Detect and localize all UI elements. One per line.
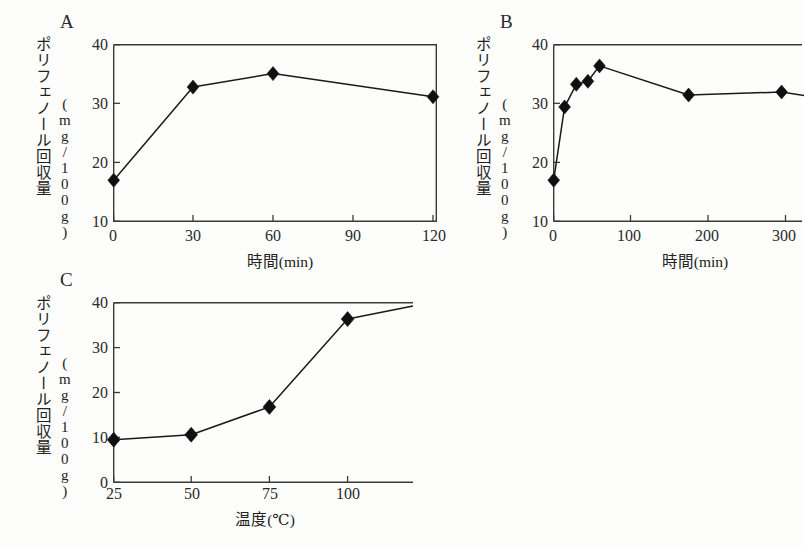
- panel-b-x-tick-300: 300: [764, 228, 804, 244]
- panel-a-y-axis-label-main: ポリフェノール回収量: [34, 36, 51, 196]
- panel-c-marker-0: [107, 432, 120, 447]
- panel-b-marker-1: [559, 100, 571, 114]
- panel-b-y-axis-label-main: ポリフェノール回収量: [474, 36, 491, 196]
- panel-a-y-axis-unit: (mg/100g): [56, 96, 72, 226]
- panel-c-y-tick-40: 40: [78, 295, 108, 311]
- panel-a-series-line: [114, 74, 433, 181]
- panel-c-letter: C: [60, 269, 73, 291]
- panel-a-y-tick-30: 30: [78, 96, 108, 112]
- panel-a-x-tick-0: 0: [99, 228, 127, 244]
- panel-b-y-axis-unit-text: (mg/100g): [497, 96, 513, 240]
- panel-b-x-tick-200: 200: [687, 228, 727, 244]
- panel-a-marker-2: [267, 67, 279, 81]
- panel-b-x-tick-0: 0: [539, 228, 567, 244]
- panel-c-plot: [113, 302, 413, 483]
- panel-a-marker-3: [427, 90, 439, 104]
- panel-b-letter: B: [500, 11, 513, 33]
- panel-b-x-axis-label: 時間(min): [615, 249, 775, 271]
- panel-c-y-axis-unit: (mg/100g): [56, 355, 72, 487]
- panel-c-y-axis-label: ポリフェノール回収量: [34, 295, 50, 495]
- panel-a-x-tick-90: 90: [338, 228, 368, 244]
- panel-c-series-line: [114, 306, 413, 440]
- panel-c-y-tick-10: 10: [78, 430, 108, 446]
- panel-c-marker-1: [185, 427, 198, 442]
- panel-b-y-axis-unit: (mg/100g): [496, 96, 512, 226]
- panel-c-y-axis-unit-text: (mg/100g): [57, 355, 73, 499]
- panel-b-marker-6: [776, 85, 788, 99]
- panel-a-y-axis-label: ポリフェノール回収量: [34, 36, 50, 232]
- panel-b-marker-2: [570, 77, 582, 91]
- panel-b-y-tick-40: 40: [518, 37, 548, 53]
- panel-a-y-axis-unit-text: (mg/100g): [57, 96, 73, 240]
- panel-a-markers: [108, 67, 439, 188]
- panel-a: A ポリフェノール回収量 (mg/100g) 40 30 20 10: [0, 0, 460, 275]
- panel-c-y-tick-30: 30: [78, 340, 108, 356]
- panel-c: C ポリフェノール回収量 (mg/100g) 40 30 20 10 0: [0, 262, 460, 547]
- panel-b-x-tick-100: 100: [609, 228, 649, 244]
- panel-b-marker-0: [548, 173, 560, 187]
- panel-c-x-axis-label: 温度(℃): [185, 507, 345, 529]
- panel-b-y-axis-label: ポリフェノール回収量: [474, 36, 490, 232]
- panel-c-x-tick-50: 50: [176, 486, 208, 502]
- panel-a-y-tick-40: 40: [78, 37, 108, 53]
- panel-b-plot: [553, 44, 802, 222]
- panel-a-y-tick-20: 20: [78, 155, 108, 171]
- panel-c-x-tick-25: 25: [98, 486, 130, 502]
- panel-a-letter: A: [60, 11, 74, 33]
- panel-a-x-tick-60: 60: [258, 228, 288, 244]
- panel-b-marker-5: [683, 88, 695, 102]
- panel-b-y-tick-20: 20: [518, 155, 548, 171]
- panel-a-x-tick-30: 30: [178, 228, 208, 244]
- panel-a-x-tick-120: 120: [414, 228, 454, 244]
- panel-c-x-tick-75: 75: [254, 486, 286, 502]
- panel-a-plot: [113, 44, 437, 222]
- panel-c-markers: [107, 312, 354, 448]
- panel-c-x-tick-100: 100: [328, 486, 368, 502]
- panel-b: B ポリフェノール回収量 (mg/100g) 40 30 20 10: [460, 0, 802, 275]
- panel-c-y-axis-label-main: ポリフェノール回収量: [34, 295, 51, 455]
- panel-b-y-tick-30: 30: [518, 96, 548, 112]
- panel-b-markers: [548, 59, 788, 187]
- panel-c-y-tick-20: 20: [78, 385, 108, 401]
